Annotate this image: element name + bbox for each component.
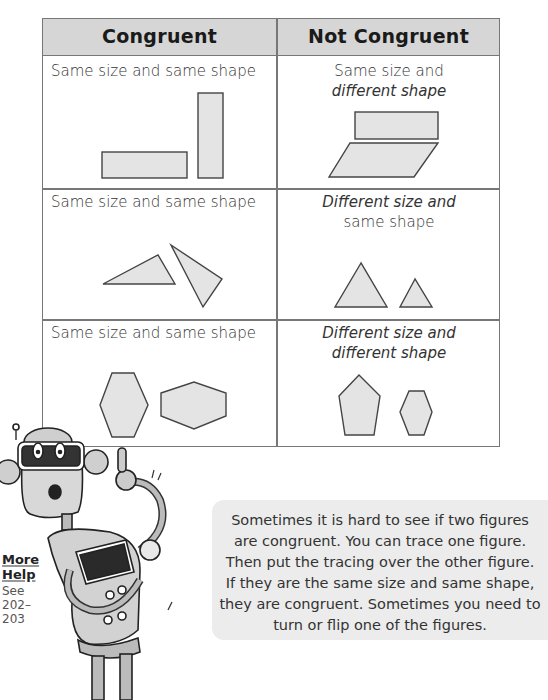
pentagon-shape xyxy=(339,375,380,435)
bubble-text: Sometimes it is hard to see if two figur… xyxy=(212,510,548,636)
more-help-see: See xyxy=(2,584,46,598)
rectangle-shape xyxy=(198,93,223,178)
speech-bubble: Sometimes it is hard to see if two figur… xyxy=(212,500,548,640)
bubble-line: Then put the tracing over the other figu… xyxy=(212,552,548,573)
more-help-pages: 203 xyxy=(2,612,46,626)
bubble-line: If they are the same size and same shape… xyxy=(212,573,548,594)
bubble-line: turn or flip one of the figures. xyxy=(212,615,548,636)
triangle-shape xyxy=(335,263,387,307)
bubble-line: Sometimes it is hard to see if two figur… xyxy=(212,510,548,531)
rectangle-shape xyxy=(102,152,187,178)
more-help-pages: 202– xyxy=(2,598,46,612)
hexagon-shape xyxy=(400,391,432,435)
more-help-link[interactable]: More Help See 202– 203 xyxy=(2,552,46,626)
triangle-shape xyxy=(171,245,222,307)
bubble-line: they are congruent. Sometimes you need t… xyxy=(212,594,548,615)
triangle-shape xyxy=(103,255,175,284)
parallelogram-shape xyxy=(329,143,438,177)
more-help-title: More xyxy=(2,552,46,567)
rectangle-shape xyxy=(355,112,438,139)
bubble-line: are congruent. You can trace one figure. xyxy=(212,531,548,552)
more-help-title: Help xyxy=(2,567,46,582)
triangle-shape xyxy=(400,279,432,307)
